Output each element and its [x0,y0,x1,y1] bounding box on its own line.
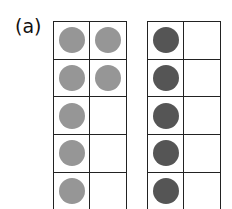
frame-cell [90,60,126,98]
left-ten-frame [53,21,127,209]
counter-dot-icon [95,27,121,53]
frame-cell [148,173,184,209]
frame-cell [148,22,184,60]
frame-cell [90,173,126,209]
counter-dot-icon [153,65,179,91]
counter-dot-icon [59,27,85,53]
counter-dot-icon [59,65,85,91]
frame-cell [184,135,220,173]
frame-cell [184,97,220,135]
frame-cell [90,97,126,135]
counter-dot-icon [153,27,179,53]
frame-cell [90,135,126,173]
counter-dot-icon [153,103,179,129]
counter-dot-icon [59,140,85,166]
frame-cell [54,135,90,173]
frame-cell [148,60,184,98]
frame-cell [184,22,220,60]
frame-cell [148,97,184,135]
frame-cell [90,22,126,60]
frame-cell [54,97,90,135]
frame-cell [148,135,184,173]
counter-dot-icon [59,103,85,129]
counter-dot-icon [153,140,179,166]
right-ten-frame [147,21,221,209]
frame-cell [54,60,90,98]
frame-cell [54,173,90,209]
counter-dot-icon [95,65,121,91]
counter-dot-icon [59,178,85,204]
frame-cell [54,22,90,60]
counter-dot-icon [153,178,179,204]
frame-cell [184,60,220,98]
figure-label: (a) [15,17,41,36]
frame-cell [184,173,220,209]
